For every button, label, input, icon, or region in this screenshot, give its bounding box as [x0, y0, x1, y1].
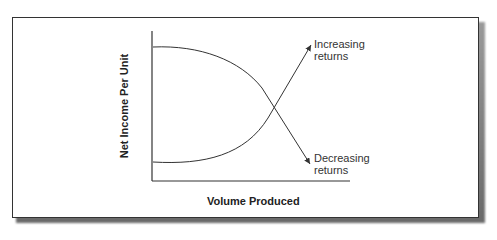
decreasing-returns-curve [153, 47, 310, 164]
increasing-returns-label: Increasing returns [314, 38, 365, 62]
label-line: returns [314, 164, 370, 176]
label-line: Decreasing [314, 152, 370, 164]
label-line: returns [314, 50, 365, 62]
x-axis-label: Volume Produced [207, 195, 300, 207]
label-line: Increasing [314, 38, 365, 50]
y-axis-label: Net Income Per Unit [118, 54, 130, 159]
decreasing-returns-label: Decreasing returns [314, 152, 370, 176]
